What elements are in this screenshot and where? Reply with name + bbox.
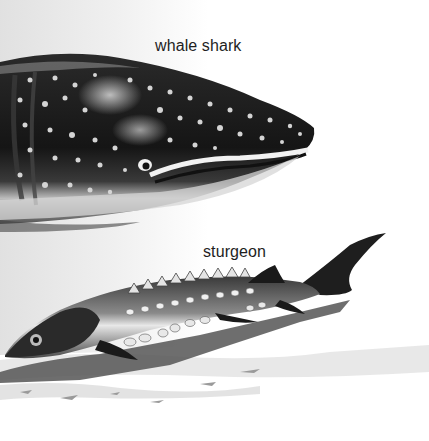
fish-illustration bbox=[0, 0, 429, 441]
whale-shark-label: whale shark bbox=[155, 37, 241, 55]
sturgeon-label: sturgeon bbox=[203, 243, 266, 261]
illustration-scene: whale shark sturgeon bbox=[0, 0, 429, 441]
